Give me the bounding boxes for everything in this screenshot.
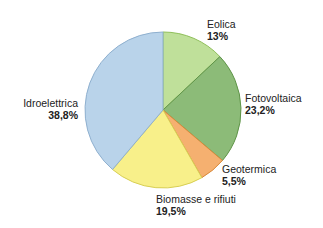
label-idroelettrica: Idroelettrica 38,8%: [14, 97, 78, 121]
label-value: 38,8%: [14, 109, 78, 121]
label-value: 13%: [207, 30, 236, 42]
label-value: 23,2%: [245, 104, 302, 116]
label-name: Biomasse e rifiuti: [156, 193, 236, 205]
label-value: 5,5%: [222, 175, 276, 187]
label-name: Geotermica: [222, 163, 276, 175]
label-name: Eolica: [207, 18, 236, 30]
label-geotermica: Geotermica 5,5%: [222, 163, 276, 187]
label-name: Idroelettrica: [14, 97, 78, 109]
label-eolica: Eolica 13%: [207, 18, 236, 42]
label-fotovoltaica: Fotovoltaica 23,2%: [245, 92, 302, 116]
label-value: 19,5%: [156, 205, 236, 217]
label-biomasse: Biomasse e rifiuti 19,5%: [156, 193, 236, 217]
label-name: Fotovoltaica: [245, 92, 302, 104]
